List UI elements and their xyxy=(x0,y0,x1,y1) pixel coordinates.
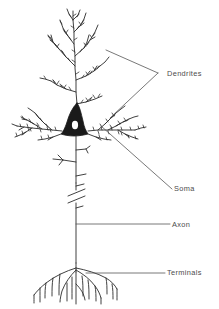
label-terminals: Terminals xyxy=(167,269,202,276)
label-axon: Axon xyxy=(172,221,190,228)
axon-collaterals xyxy=(53,146,90,208)
apical-dendrite-branches xyxy=(40,9,109,104)
soma-cell-body xyxy=(61,103,88,136)
neuron-diagram: Dendrites Soma Axon Terminals xyxy=(0,0,219,309)
soma-nucleus xyxy=(72,121,78,129)
dendritic-spines-apical xyxy=(44,14,100,103)
neuron-illustration xyxy=(0,0,219,309)
leader-soma xyxy=(101,126,172,189)
label-soma: Soma xyxy=(174,185,195,192)
axon-terminals xyxy=(34,263,117,304)
dendritic-spines-basal-right xyxy=(93,113,144,140)
basal-dendrites-left xyxy=(12,108,62,140)
axon-break-mark xyxy=(68,189,85,203)
leader-dendrites xyxy=(106,50,158,118)
label-dendrites: Dendrites xyxy=(167,70,202,77)
